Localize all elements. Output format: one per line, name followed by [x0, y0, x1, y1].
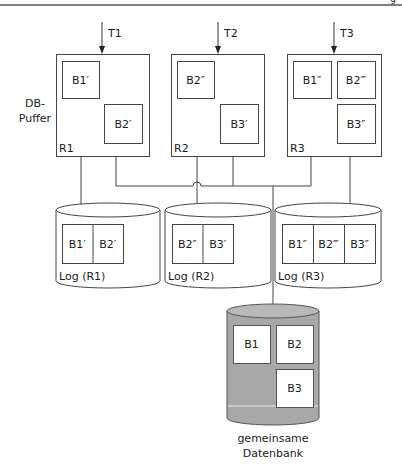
buffer-region-r2: R2B2″B3′	[172, 55, 265, 157]
arrow-down-icon	[99, 46, 105, 54]
transaction-label: T2	[223, 27, 238, 40]
transaction-t3: T3	[331, 22, 354, 54]
shared-database-diagram: g DB- Puffer T1T2T3 R1B1′B2′R2B2″B3′R3B1…	[0, 0, 402, 474]
log-label: Log (R2)	[168, 270, 214, 283]
block-label: B2‴	[346, 74, 367, 87]
region-label: R1	[59, 142, 74, 155]
transaction-t2: T2	[215, 22, 238, 54]
block-label: B2	[287, 338, 302, 351]
arrow-down-icon	[331, 46, 337, 54]
block-label: B3′	[230, 118, 248, 131]
log-entry-label: B1′	[69, 238, 87, 251]
transactions: T1T2T3	[99, 22, 354, 54]
database-top	[227, 304, 319, 318]
header-page-fragment: g	[390, 0, 396, 4]
log-entry-label: B3′	[209, 238, 227, 251]
buffer-block: B1′	[63, 62, 100, 99]
block-label: B2′	[114, 118, 132, 131]
shared-bus-line	[116, 156, 311, 186]
transaction-t1: T1	[99, 22, 122, 54]
log-entry-label: B2′	[99, 238, 117, 251]
buffer-region-r1: R1B1′B2′	[57, 55, 150, 157]
region-label: R2	[174, 142, 189, 155]
cylinder-top	[56, 203, 160, 217]
shared-database: B1B2B3	[227, 304, 319, 425]
log-cylinder-1: B1′B2′Log (R1)	[56, 203, 160, 288]
log-cylinders: B1′B2′Log (R1)B2″B3′Log (R2)B1″B2‴B3″Log…	[56, 203, 381, 288]
log-entry-label: B2″	[178, 238, 197, 251]
block-label: B3″	[347, 118, 366, 131]
database-block: B2	[277, 326, 314, 364]
log-entry-label: B1″	[288, 238, 307, 251]
cylinder-top	[165, 203, 271, 217]
log-entry-label: B2‴	[318, 238, 339, 251]
log-cylinder-3: B1″B2‴B3″Log (R3)	[275, 203, 381, 288]
buffer-block: B2′	[105, 105, 143, 144]
log-label: Log (R3)	[278, 270, 324, 283]
log-cylinder-2: B2″B3′Log (R2)	[165, 203, 271, 288]
database-block: B1	[234, 326, 271, 364]
arrow-down-icon	[215, 46, 221, 54]
transaction-label: T1	[107, 27, 122, 40]
buffer-regions: R1B1′B2′R2B2″B3′R3B1″B2‴B3″	[57, 55, 382, 157]
buffer-label-line2: Puffer	[19, 112, 52, 125]
cylinder-top	[275, 203, 381, 217]
block-label: B1	[244, 338, 259, 351]
block-label: B1′	[72, 74, 90, 87]
buffer-block: B3′	[221, 105, 259, 144]
block-label: B2″	[186, 74, 205, 87]
block-label: B1″	[303, 74, 322, 87]
buffer-region-r3: R3B1″B2‴B3″	[288, 55, 382, 157]
buffer-block: B3″	[338, 105, 376, 144]
database-label-line2: Datenbank	[243, 447, 304, 460]
buffer-label-line1: DB-	[25, 97, 45, 110]
buffer-block: B2‴	[338, 62, 376, 99]
transaction-label: T3	[339, 27, 354, 40]
database-label-line1: gemeinsame	[237, 432, 308, 445]
log-label: Log (R1)	[59, 270, 105, 283]
block-label: B3	[287, 382, 302, 395]
buffer-block: B2″	[178, 62, 215, 99]
database-block: B3	[277, 370, 314, 408]
buffer-block: B1″	[294, 62, 332, 99]
log-entry-label: B3″	[350, 238, 369, 251]
region-label: R3	[290, 142, 305, 155]
